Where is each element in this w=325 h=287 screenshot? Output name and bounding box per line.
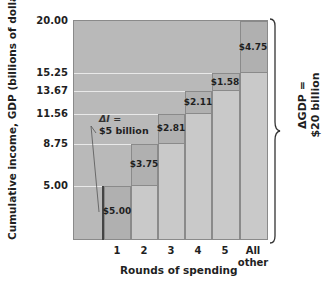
total-brace-icon bbox=[269, 18, 283, 244]
x-tick-1: 1 bbox=[114, 245, 121, 257]
delta-gdp-line1: ΔGDP = bbox=[296, 45, 309, 165]
x-axis-label: Rounds of spending bbox=[120, 264, 238, 276]
x-tick-all-other: All other bbox=[238, 245, 268, 269]
x-tick-3: 3 bbox=[168, 245, 175, 257]
delta-gdp-annotation: ΔGDP = $20 billion bbox=[296, 45, 322, 165]
delta-gdp-line2: $20 billion bbox=[309, 45, 322, 165]
x-tick-2: 2 bbox=[141, 245, 148, 257]
x-tick-4: 4 bbox=[195, 245, 202, 257]
x-tick-5: 5 bbox=[222, 245, 229, 257]
